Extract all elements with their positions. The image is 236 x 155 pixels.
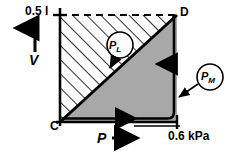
pl-callout-label: PL xyxy=(109,39,121,54)
point-label-d: D xyxy=(180,6,189,18)
point-label-c: C xyxy=(50,120,59,132)
pm-callout-label: PM xyxy=(201,70,215,85)
x-axis-max-label: 0.6 kPa xyxy=(168,130,209,142)
pm-subscript: M xyxy=(208,76,215,85)
y-axis-max-label: 0.5 l xyxy=(25,5,48,17)
y-axis-title: V xyxy=(29,53,38,67)
x-axis-title: P xyxy=(97,131,106,145)
pl-subscript: L xyxy=(116,45,121,54)
pv-diagram: 0.5 l 0.6 kPa V P C D PL PM xyxy=(0,0,236,155)
